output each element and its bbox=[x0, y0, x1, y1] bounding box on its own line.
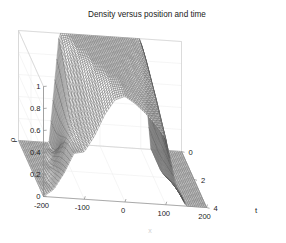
rho-tick-label: 1 bbox=[36, 82, 40, 91]
y-axis-label: ρ bbox=[8, 137, 17, 142]
rho-tick-label: 0.4 bbox=[30, 148, 41, 157]
x-tick-label: 100 bbox=[157, 209, 170, 218]
rho-tick-label: 0.2 bbox=[30, 170, 41, 179]
figure-3d-mesh-plot: Density versus position and time 00.20.4… bbox=[0, 0, 286, 243]
t-tick-mark bbox=[207, 208, 210, 209]
plot-canvas: Density versus position and time 00.20.4… bbox=[0, 0, 286, 243]
t-tick-label: 4 bbox=[214, 204, 218, 213]
t-axis-label: t bbox=[255, 206, 258, 215]
x-tick-label: 200 bbox=[198, 212, 211, 221]
rho-tick-label: 0.6 bbox=[30, 126, 41, 135]
t-tick-label: 2 bbox=[201, 176, 205, 185]
x-tick-mark bbox=[84, 196, 85, 199]
x-tick-mark bbox=[125, 199, 126, 202]
x-tick-label: -200 bbox=[34, 201, 49, 210]
x-tick-mark bbox=[166, 202, 167, 205]
x-tick-mark bbox=[207, 205, 208, 208]
plot-title: Density versus position and time bbox=[88, 10, 206, 19]
x-axis-label: x bbox=[148, 227, 152, 234]
t-tick-label: 0 bbox=[189, 148, 193, 157]
x-tick-label: -100 bbox=[75, 203, 90, 212]
rho-tick-label: 0.8 bbox=[30, 104, 41, 113]
x-tick-label: 0 bbox=[121, 206, 125, 215]
